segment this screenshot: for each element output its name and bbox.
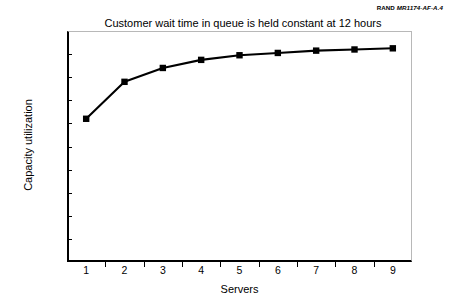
rand-document-id: MR1174-AF-A.4 <box>397 4 443 11</box>
x-axis-tick-label: 7 <box>304 265 328 276</box>
x-axis-tick-label: 8 <box>343 265 367 276</box>
plot-area <box>67 31 412 262</box>
y-axis-tick-mark <box>67 147 72 148</box>
y-axis-title: Capacity utilization <box>22 65 34 225</box>
chart-title: Customer wait time in queue is held cons… <box>78 17 408 29</box>
x-axis-tick-mark <box>144 262 145 267</box>
x-axis-tick-label: 3 <box>151 265 175 276</box>
rand-source-credit: RAND MR1174-AF-A.4 <box>377 5 443 11</box>
y-axis-tick-mark <box>67 170 72 171</box>
y-axis-tick-mark <box>67 193 72 194</box>
x-axis-tick-label: 9 <box>381 265 405 276</box>
x-axis-tick-mark <box>220 262 221 267</box>
chart-figure: RAND MR1174-AF-A.4 Customer wait time in… <box>0 0 449 308</box>
x-axis-tick-mark <box>297 262 298 267</box>
x-axis-tick-mark <box>105 262 106 267</box>
y-axis-tick-mark <box>67 77 72 78</box>
y-axis-tick-mark <box>67 54 72 55</box>
y-axis-tick-mark <box>67 123 72 124</box>
x-axis-tick-label: 1 <box>74 265 98 276</box>
x-axis-title: Servers <box>67 283 412 295</box>
y-axis-tick-mark <box>67 100 72 101</box>
x-axis-tick-mark <box>374 262 375 267</box>
x-axis-tick-mark <box>259 262 260 267</box>
x-axis-tick-label: 5 <box>228 265 252 276</box>
x-axis-tick-label: 2 <box>113 265 137 276</box>
rand-org-label: RAND <box>377 4 395 11</box>
y-axis-tick-mark <box>67 239 72 240</box>
x-axis-tick-mark <box>182 262 183 267</box>
x-axis-tick-mark <box>335 262 336 267</box>
x-axis-tick-label: 6 <box>266 265 290 276</box>
y-axis-tick-mark <box>67 216 72 217</box>
x-axis-tick-label: 4 <box>189 265 213 276</box>
